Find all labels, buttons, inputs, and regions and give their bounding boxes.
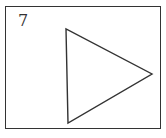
triangle-icon: [0, 0, 166, 138]
